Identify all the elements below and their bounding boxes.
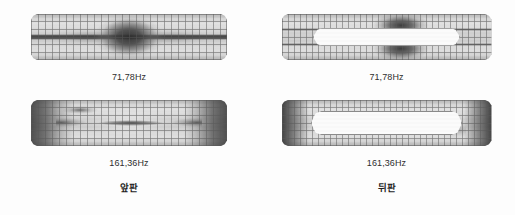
contour-antinode-right-end xyxy=(464,100,491,146)
mode-block-back-mode2: 161,36Hz xyxy=(258,100,515,146)
mode-shape-plot-back-mode1 xyxy=(282,14,492,60)
sound-hole-cutout xyxy=(311,111,462,135)
frequency-label-back-mode2: 161,36Hz xyxy=(258,158,515,168)
contour-antinode-left-end xyxy=(282,100,309,146)
mode-shape-plot-front-mode1 xyxy=(31,14,227,60)
mode-shape-plot-back-mode2 xyxy=(282,100,492,146)
frequency-label-back-mode1: 71,78Hz xyxy=(258,72,515,82)
column-caption-front: 앞판 xyxy=(0,180,258,194)
mode-block-back-mode1: 71,78Hz xyxy=(258,14,515,60)
contour-field xyxy=(31,14,227,60)
sound-hole-cutout xyxy=(313,28,460,45)
mode-block-front-mode1: 71,78Hz xyxy=(0,14,258,60)
panel-column-back: 71,78Hz xyxy=(258,0,515,215)
panel-column-front: 71,78Hz xyxy=(0,0,258,215)
frequency-label-front-mode1: 71,78Hz xyxy=(0,72,258,82)
column-caption-back: 뒤판 xyxy=(258,180,515,194)
contour-lens-center-slim xyxy=(98,120,165,126)
mode-block-front-mode2: 161,36Hz xyxy=(0,100,258,146)
frequency-label-front-mode2: 161,36Hz xyxy=(0,158,258,168)
contour-lens-upper-left xyxy=(62,106,97,113)
contour-antinode-center xyxy=(94,15,165,59)
mode-shape-plot-front-mode2 xyxy=(31,100,227,146)
contour-field xyxy=(31,100,227,146)
mode-shape-figure: 71,78Hz xyxy=(0,0,515,215)
